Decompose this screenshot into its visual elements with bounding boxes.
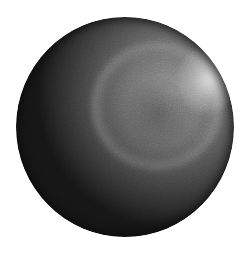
sphere-edge-shadow (16, 17, 234, 237)
sphere (16, 17, 234, 237)
image-canvas (0, 0, 250, 254)
